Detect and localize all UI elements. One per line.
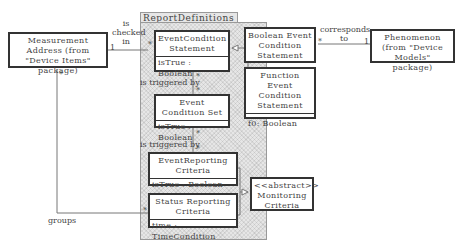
- class-status-reporting[interactable]: Status Reporting Criteria time : TimeCon…: [148, 193, 238, 228]
- mult-corresponds-right: 1: [364, 37, 369, 46]
- mult-trig1-bottom: *: [196, 86, 200, 95]
- mult-checked-left: 1: [110, 43, 115, 52]
- mult-trig1-top: *: [196, 72, 200, 81]
- class-event-condition-statement[interactable]: EventCondition Statement isTrue : Boolea…: [154, 30, 230, 72]
- label-corresponds-to: corresponds to: [320, 25, 368, 43]
- label-is-checked-in: is checked in: [112, 19, 140, 46]
- class-event-condition-set[interactable]: Event Condition Set isTrue : Boolean: [154, 94, 230, 128]
- class-event-reporting[interactable]: EventReporting Criteria isTrue : Boolean: [148, 152, 238, 186]
- label-triggered-by-2: is triggered by: [140, 140, 200, 149]
- mult-trig2-top: *: [196, 129, 200, 138]
- mult-groups-top: *: [59, 70, 63, 79]
- label-groups: groups: [48, 216, 76, 225]
- class-phenomenon[interactable]: Phenomenon (from "Device Models" package…: [370, 29, 455, 63]
- label-triggered-by-1: is triggered by: [140, 78, 200, 87]
- mult-corresponds-left: *: [318, 37, 322, 46]
- class-function-event[interactable]: Function Event Condition Statement f0: B…: [244, 67, 316, 119]
- class-boolean-event[interactable]: Boolean Event Condition Statement: [244, 27, 316, 63]
- mult-trig2-bottom: *: [196, 144, 200, 153]
- class-monitoring-criteria[interactable]: <<abstract>> Monitoring Criteria: [250, 177, 314, 211]
- mult-checked-right: *: [148, 40, 152, 49]
- mult-groups-end: *: [143, 206, 147, 215]
- class-measurement-address[interactable]: Measurement Address (from "Device Items"…: [8, 32, 108, 68]
